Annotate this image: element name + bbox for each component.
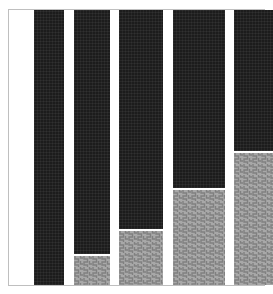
bar-5 xyxy=(234,10,273,285)
plot-area xyxy=(9,10,264,285)
bar-5-segment-dark xyxy=(234,10,273,153)
plot-frame xyxy=(8,9,265,286)
bar-1 xyxy=(34,10,64,285)
bar-2-segment-light xyxy=(74,256,111,285)
bar-3-segment-dark xyxy=(119,10,163,231)
chart-root xyxy=(0,0,273,294)
bar-1-segment-dark xyxy=(34,10,64,285)
bar-4-segment-light xyxy=(173,190,226,285)
bar-3 xyxy=(119,10,163,285)
bar-5-segment-light xyxy=(234,153,273,285)
bar-2 xyxy=(74,10,111,285)
bar-3-segment-light xyxy=(119,231,163,285)
bar-4-segment-dark xyxy=(173,10,226,190)
bar-4 xyxy=(173,10,226,285)
bar-2-segment-dark xyxy=(74,10,111,256)
